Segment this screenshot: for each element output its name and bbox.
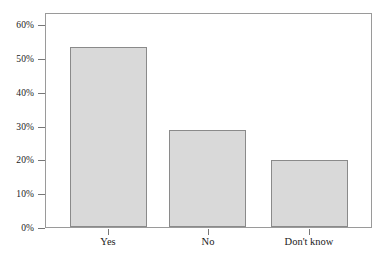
y-axis-tick-label: 10%	[16, 186, 34, 202]
y-axis: 0% 10% 20% 30% 40% 50% 60%	[0, 0, 45, 262]
y-axis-tick-mark	[38, 93, 45, 94]
x-axis-label-dont-know: Don't know	[285, 234, 334, 249]
y-axis-tick-label: 0%	[21, 220, 34, 236]
y-axis-tick-mark	[38, 59, 45, 60]
y-axis-tick-label: 50%	[16, 51, 34, 67]
y-axis-tick-label: 20%	[16, 152, 34, 168]
y-axis-tick-mark	[38, 194, 45, 195]
y-axis-tick-mark	[38, 228, 45, 229]
y-axis-tick-label: 60%	[16, 17, 34, 33]
bar-chart: 0% 10% 20% 30% 40% 50% 60%	[0, 0, 390, 262]
x-axis-label-no: No	[202, 234, 215, 249]
bar-yes	[70, 47, 147, 227]
y-axis-tick-mark	[38, 127, 45, 128]
y-axis-tick-mark	[38, 160, 45, 161]
x-axis-label-yes: Yes	[100, 234, 115, 249]
y-axis-tick-label: 40%	[16, 85, 34, 101]
y-axis-tick-label: 30%	[16, 119, 34, 135]
plot-area	[45, 13, 372, 228]
bar-no	[169, 130, 246, 227]
y-axis-tick-mark	[38, 25, 45, 26]
bar-dont-know	[271, 160, 348, 227]
